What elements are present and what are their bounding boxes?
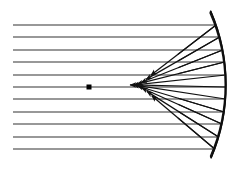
optics-ray-diagram-figure: Spherical aberration of a concave spheri… [0, 0, 236, 169]
caustic-segment-8 [178, 98, 224, 112]
caustic-segment-4 [178, 62, 225, 74]
caustic-segment-9 [178, 104, 222, 124]
caustic-segment-3 [178, 50, 223, 68]
incoming-parallel-rays-group [13, 25, 226, 149]
focal-point-marker [87, 85, 92, 90]
mirror-reflective-surface [211, 11, 226, 158]
ray-diagram-canvas: Spherical aberration of a concave spheri… [0, 0, 236, 169]
concave-spherical-mirror [210, 11, 226, 158]
